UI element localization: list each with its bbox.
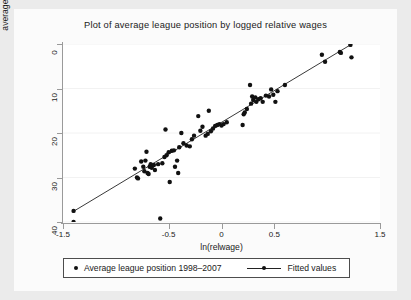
data-point (196, 114, 200, 118)
data-point (275, 89, 279, 93)
x-axis-title: ln(relwage) (63, 242, 380, 252)
data-point (153, 168, 157, 172)
data-point (141, 165, 145, 169)
x-tick (169, 224, 170, 229)
data-point (144, 149, 148, 153)
data-point (173, 165, 177, 169)
data-point (152, 163, 156, 167)
chart-title: Plot of average league position by logge… (14, 20, 397, 30)
x-tick-label: 0 (202, 230, 242, 239)
data-point (271, 93, 275, 97)
data-point (349, 55, 353, 59)
data-point (163, 127, 167, 131)
data-point (198, 129, 202, 133)
data-point (176, 171, 180, 175)
data-point (323, 60, 327, 64)
scatter-plot-svg (63, 44, 380, 222)
y-tick-label: 10 (50, 87, 59, 107)
data-point (179, 131, 183, 135)
x-tick-label: 1.5 (360, 230, 400, 239)
data-point (133, 166, 137, 170)
legend-label-scatter: Average league position 1998–2007 (84, 263, 221, 273)
plot-area (63, 44, 380, 222)
x-tick (274, 224, 275, 229)
data-point (143, 158, 147, 162)
data-point (269, 87, 273, 91)
legend-item-scatter[interactable]: Average league position 1998–2007 (74, 259, 221, 277)
data-point (267, 94, 271, 98)
data-point (146, 172, 150, 176)
legend-label-fitted: Fitted values (287, 263, 336, 273)
data-point (240, 123, 244, 127)
data-point (273, 100, 277, 104)
legend-dot-icon (74, 266, 78, 270)
data-point (200, 125, 204, 129)
data-point (283, 83, 287, 87)
data-point (188, 144, 192, 148)
data-point (71, 220, 75, 222)
data-point (158, 216, 162, 220)
y-axis-line (62, 42, 63, 224)
data-point (225, 120, 229, 124)
data-point (156, 162, 160, 166)
legend-line-dot-icon (262, 266, 266, 270)
x-tick-label: -0.5 (149, 230, 189, 239)
y-tick-label: 20 (50, 132, 59, 152)
data-point (177, 145, 181, 149)
x-tick (222, 224, 223, 229)
data-point (248, 83, 252, 87)
legend-line-icon (247, 266, 281, 270)
x-tick-label: 0.5 (254, 230, 294, 239)
data-point (175, 158, 179, 162)
data-point (192, 133, 196, 137)
data-point (168, 180, 172, 184)
data-point (71, 209, 75, 213)
legend-item-fitted[interactable]: Fitted values (247, 259, 336, 277)
data-point (139, 159, 143, 163)
y-tick-label: 30 (50, 176, 59, 196)
y-axis-title: average league position (0, 0, 10, 60)
data-point (136, 176, 140, 180)
data-point (339, 51, 343, 55)
data-point (245, 107, 249, 111)
data-point (172, 148, 176, 152)
data-point (348, 44, 352, 47)
data-point (207, 109, 211, 113)
data-point (261, 100, 265, 104)
data-point (160, 161, 164, 165)
x-tick (380, 224, 381, 229)
data-point (320, 52, 324, 56)
y-tick-label: 0 (50, 43, 59, 63)
x-tick-label: -1.5 (43, 230, 83, 239)
x-tick (63, 224, 64, 229)
figure-canvas: Plot of average league position by logge… (0, 0, 411, 300)
chart-legend: Average league position 1998–2007 Fitted… (63, 258, 350, 278)
